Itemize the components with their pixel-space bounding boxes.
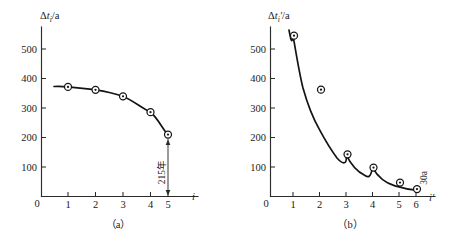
chart-a-y-label-100: 100	[21, 162, 37, 173]
chart-a-annotation-arrowhead-top	[166, 140, 171, 146]
chart-a-y-label-0: 0	[34, 198, 39, 209]
chart-a-y-label-300: 300	[21, 103, 37, 114]
chart-b-y-title-unit: /a	[282, 10, 290, 21]
chart-b-point-2	[318, 86, 325, 93]
chart-a-x-label-2: 2	[93, 199, 98, 210]
chart-b-point-1	[291, 32, 298, 39]
chart-a-data-points	[65, 83, 172, 138]
chart-b-annotation-label: 30a	[419, 170, 429, 185]
chart-a-annotation-label: 215年	[156, 160, 167, 184]
chart-b-y-label-400: 400	[250, 73, 266, 84]
chart-b-x-label-3: 3	[343, 199, 348, 210]
chart-a-x-label-5: 5	[165, 199, 170, 210]
chart-a-y-label-400: 400	[21, 73, 37, 84]
chart-b-y-label-300: 300	[250, 103, 266, 114]
chart-a-y-label-500: 500	[21, 44, 37, 55]
chart-a-y-tick-labels: 0 100 200 300 400 500	[21, 44, 39, 209]
chart-b-y-label-100: 100	[250, 162, 266, 173]
chart-a-x-axis-title: i	[192, 191, 195, 202]
chart-a-x-label-3: 3	[120, 199, 125, 210]
chart-a-annotation-arrowhead-bottom	[166, 190, 171, 196]
chart-a-y-title-unit: /a	[52, 10, 60, 21]
chart-b-x-axis-title: i′	[429, 192, 435, 203]
chart-a-y-ticks	[42, 49, 47, 197]
chart-b-y-label-200: 200	[250, 132, 266, 143]
chart-b-y-label-0: 0	[263, 198, 268, 209]
figure-container: Δti/a 0 100 200 300 400 500	[0, 0, 474, 237]
chart-a-y-axis-title: Δti/a	[40, 10, 60, 24]
chart-b-x-label-6: 6	[413, 199, 418, 210]
chart-b-x-label-4: 4	[370, 199, 376, 210]
chart-a-caption: （a）	[106, 219, 131, 230]
chart-b-point-6	[414, 186, 421, 193]
chart-a-x-tick-labels: 1 2 3 4 5	[65, 199, 170, 210]
chart-b-x-label-1: 1	[290, 199, 295, 210]
chart-b-point-5	[397, 179, 404, 186]
chart-a-annotation-215: 215年	[156, 139, 170, 196]
chart-a-x-label-1: 1	[65, 199, 70, 210]
chart-b-x-label-5: 5	[396, 199, 401, 210]
chart-b-trend-curve	[289, 30, 416, 190]
chart-panel-b: Δti′/a 0 100 200 300 400 500	[237, 0, 474, 237]
chart-a-y-label-200: 200	[21, 132, 37, 143]
chart-a-point-3	[120, 93, 127, 100]
chart-a-svg: Δti/a 0 100 200 300 400 500	[0, 0, 237, 237]
chart-b-point-3	[344, 151, 351, 158]
chart-b-x-tick-labels: 1 2 3 4 5 6	[290, 199, 418, 210]
chart-a-point-4	[147, 109, 154, 116]
chart-b-point-4	[370, 164, 377, 171]
chart-b-caption: （b）	[337, 219, 362, 230]
chart-b-y-axis-title: Δti′/a	[268, 10, 290, 24]
chart-a-x-ticks	[68, 192, 168, 197]
chart-b-x-ticks	[293, 192, 416, 197]
chart-a-point-2	[92, 86, 99, 93]
chart-b-y-tick-labels: 0 100 200 300 400 500	[250, 44, 268, 209]
chart-b-svg: Δti′/a 0 100 200 300 400 500	[237, 0, 474, 237]
chart-a-point-5	[165, 131, 172, 138]
chart-b-y-ticks	[271, 49, 276, 197]
chart-b-x-label-2: 2	[317, 199, 322, 210]
chart-a-x-label-4: 4	[148, 199, 154, 210]
chart-panel-a: Δti/a 0 100 200 300 400 500	[0, 0, 237, 237]
chart-b-y-label-500: 500	[250, 44, 266, 55]
chart-a-point-1	[65, 83, 72, 90]
